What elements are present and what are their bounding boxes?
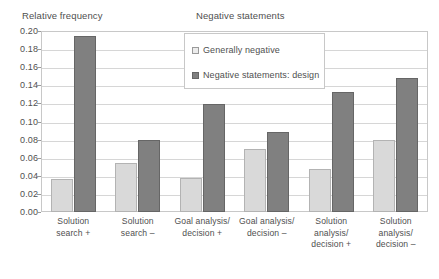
y-tick-label: 0.02 bbox=[4, 189, 38, 199]
x-tick-label-line: decision – bbox=[235, 228, 300, 240]
y-tick-label: 0.16 bbox=[4, 62, 38, 72]
y-axis-title: Relative frequency bbox=[22, 10, 102, 21]
bar bbox=[51, 179, 73, 212]
y-tick-label: 0.14 bbox=[4, 80, 38, 90]
x-tick-label-line: Solution bbox=[364, 216, 429, 228]
y-tick-label: 0.20 bbox=[4, 26, 38, 36]
legend-item-generally-negative[interactable]: Generally negative bbox=[192, 45, 280, 55]
x-tick-label-line: analysis/ bbox=[299, 228, 364, 240]
x-tick-label-line: Goal analysis/ bbox=[170, 216, 235, 228]
bar-chart: Relative frequency Negative statements 0… bbox=[0, 0, 439, 279]
x-tick-label-line: Solution bbox=[299, 216, 364, 228]
legend-label: Generally negative bbox=[203, 45, 280, 55]
x-tick-label: Solutionanalysis/decision + bbox=[299, 216, 364, 251]
bar bbox=[332, 92, 354, 212]
x-tick-label-line: analysis/ bbox=[364, 228, 429, 240]
legend-swatch-icon bbox=[192, 47, 199, 54]
y-tick-label: 0.00 bbox=[4, 207, 38, 217]
legend-label: Negative statements: design bbox=[203, 70, 319, 80]
y-tick-label: 0.12 bbox=[4, 98, 38, 108]
bar-group bbox=[41, 31, 106, 212]
legend-swatch-icon bbox=[192, 72, 199, 79]
x-tick-label-line: search + bbox=[41, 228, 106, 240]
x-tick-label: Solutionsearch – bbox=[106, 216, 171, 239]
bar bbox=[267, 132, 289, 212]
bar-group bbox=[364, 31, 429, 212]
bar bbox=[309, 169, 331, 212]
chart-title: Negative statements bbox=[196, 10, 285, 21]
bar-group bbox=[106, 31, 171, 212]
y-tick-mark bbox=[37, 212, 41, 213]
x-tick-label-line: decision + bbox=[170, 228, 235, 240]
bar bbox=[244, 149, 266, 212]
bar bbox=[180, 178, 202, 212]
x-tick-label-line: decision + bbox=[299, 239, 364, 251]
x-tick-label-line: Solution bbox=[41, 216, 106, 228]
bar bbox=[396, 78, 418, 212]
x-axis-labels: Solutionsearch +Solutionsearch –Goal ana… bbox=[41, 216, 428, 276]
bar bbox=[115, 163, 137, 212]
y-tick-label: 0.18 bbox=[4, 44, 38, 54]
x-tick-label: Goal analysis/decision – bbox=[235, 216, 300, 239]
x-tick-label-line: search – bbox=[106, 228, 171, 240]
x-tick-label-line: Solution bbox=[106, 216, 171, 228]
y-axis: 0.200.180.160.140.120.100.080.060.040.02… bbox=[0, 31, 38, 212]
bar bbox=[138, 140, 160, 212]
y-tick-label: 0.04 bbox=[4, 171, 38, 181]
x-tick-label: Goal analysis/decision + bbox=[170, 216, 235, 239]
y-tick-label: 0.08 bbox=[4, 135, 38, 145]
y-tick-label: 0.06 bbox=[4, 153, 38, 163]
x-tick-label: Solutionanalysis/decision – bbox=[364, 216, 429, 251]
x-tick-label-line: decision – bbox=[364, 239, 429, 251]
x-tick-label: Solutionsearch + bbox=[41, 216, 106, 239]
x-tick-label-line: Goal analysis/ bbox=[235, 216, 300, 228]
legend: Generally negative Negative statements: … bbox=[184, 33, 325, 89]
legend-item-negative-statements-design[interactable]: Negative statements: design bbox=[192, 70, 319, 80]
y-tick-label: 0.10 bbox=[4, 117, 38, 127]
bar bbox=[74, 36, 96, 212]
bar bbox=[203, 104, 225, 212]
bar bbox=[373, 140, 395, 212]
